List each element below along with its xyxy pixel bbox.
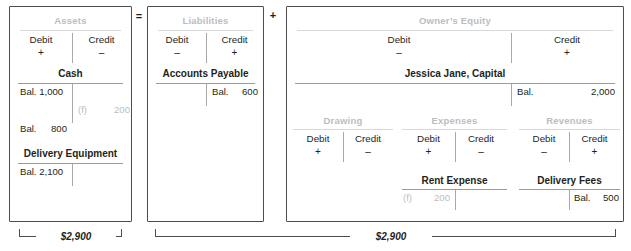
liabilities-ap-credit-ref: Bal. (212, 86, 229, 97)
revenues-column-divider (569, 132, 570, 162)
revenues-account-name: Delivery Fees (519, 175, 620, 186)
expenses-title: Expenses (402, 115, 507, 126)
expenses-account-name: Rent Expense (402, 175, 507, 186)
revenues-title-rule (519, 129, 620, 130)
liabilities-credit-label: Credit (206, 34, 263, 45)
sub-account-expenses: Expenses Debit + Credit – Rent Expense (… (402, 115, 507, 215)
expenses-credit-sign: – (455, 146, 507, 157)
expenses-debit-sign: + (402, 146, 455, 157)
liabilities-ap-credit-amount: 600 (230, 86, 258, 97)
owners-equity-debit-sign: – (287, 47, 511, 58)
owners-equity-credit-sign: + (511, 47, 623, 58)
owners-equity-capital-account-name: Jessica Jane, Capital (287, 68, 623, 79)
drawing-debit-sign: + (293, 146, 343, 157)
owners-equity-column-divider (511, 33, 512, 63)
expenses-debit-ref: (f) (403, 192, 412, 203)
drawing-credit-label: Credit (343, 133, 393, 144)
sub-account-revenues: Revenues Debit – Credit + Delivery Fees … (519, 115, 620, 215)
owners-equity-debit-label: Debit (287, 34, 511, 45)
sub-account-drawing: Drawing Debit + Credit – (293, 115, 393, 215)
assets-account-delivery-equipment-name: Delivery Equipment (10, 148, 131, 159)
assets-debit-label: Debit (10, 34, 72, 45)
expenses-title-rule (402, 129, 507, 130)
drawing-column-divider (343, 132, 344, 162)
expenses-account-divider (455, 190, 456, 210)
assets-credit-label: Credit (72, 34, 131, 45)
expenses-column-divider (455, 132, 456, 162)
liabilities-title-rule (158, 30, 253, 31)
assets-cash-debit-row-1: Bal. 1,000 (20, 86, 63, 97)
plus-operator: + (266, 9, 280, 21)
liabilities-debit-label: Debit (148, 34, 206, 45)
assets-cash-credit-amount-2: 200 (98, 104, 130, 115)
revenues-credit-ref: Bal. (574, 192, 591, 203)
liabilities-column-divider (206, 33, 207, 63)
liabilities-debit-sign: – (148, 47, 206, 58)
owners-equity-capital-rule (295, 83, 615, 84)
expenses-debit-amount: 200 (418, 192, 450, 203)
revenues-debit-label: Debit (519, 133, 569, 144)
drawing-title-rule (293, 129, 393, 130)
liabilities-account-accounts-payable-name: Accounts Payable (148, 68, 263, 79)
assets-cash-debit-value-3: 800 (36, 123, 67, 134)
drawing-title: Drawing (293, 115, 393, 126)
liabilities-accounts-payable-divider (206, 84, 207, 106)
assets-debit-sign: + (10, 47, 72, 58)
liabilities-box: Liabilities Debit – Credit + Accounts Pa… (147, 6, 264, 222)
owners-equity-capital-credit-ref: Bal. (517, 86, 534, 97)
liabilities-credit-sign: + (206, 47, 263, 58)
assets-cash-credit-ref-2: (f) (78, 104, 87, 115)
assets-delivery-equipment-debit-row-1: Bal. 2,100 (20, 166, 63, 177)
assets-account-cash-name: Cash (10, 68, 131, 79)
assets-cash-debit-ref-3: Bal. (20, 123, 37, 134)
owners-equity-title: Owner’s Equity (287, 15, 623, 26)
revenues-title: Revenues (519, 115, 620, 126)
expenses-debit-label: Debit (402, 133, 455, 144)
assets-cash-rule (18, 83, 123, 84)
drawing-debit-label: Debit (293, 133, 343, 144)
assets-delivery-equipment-rule (18, 163, 123, 164)
owners-equity-capital-divider (511, 84, 512, 106)
accounting-equation-diagram: Assets Debit + Credit – Cash Bal. 1,000 … (0, 0, 631, 251)
revenues-credit-sign: + (569, 146, 620, 157)
assets-cash-divider (72, 84, 73, 123)
assets-title: Assets (10, 15, 131, 26)
assets-title-rule (20, 30, 121, 31)
right-total-label: $2,900 (350, 231, 432, 242)
liabilities-title: Liabilities (148, 15, 263, 26)
equals-operator: = (133, 10, 145, 22)
assets-total-label: $2,900 (36, 231, 116, 242)
revenues-credit-label: Credit (569, 133, 620, 144)
expenses-credit-label: Credit (455, 133, 507, 144)
owners-equity-title-rule (297, 30, 613, 31)
owners-equity-box: Owner’s Equity Debit – Credit + Jessica … (286, 6, 624, 222)
assets-box: Assets Debit + Credit – Cash Bal. 1,000 … (9, 6, 132, 222)
assets-credit-sign: – (72, 47, 131, 58)
owners-equity-credit-label: Credit (511, 34, 623, 45)
revenues-debit-sign: – (519, 146, 569, 157)
assets-delivery-equipment-divider (72, 164, 73, 186)
revenues-account-divider (569, 190, 570, 210)
revenues-credit-amount: 500 (594, 192, 619, 203)
drawing-credit-sign: – (343, 146, 393, 157)
owners-equity-capital-credit-amount: 2,000 (557, 86, 615, 97)
assets-column-divider (72, 33, 73, 63)
